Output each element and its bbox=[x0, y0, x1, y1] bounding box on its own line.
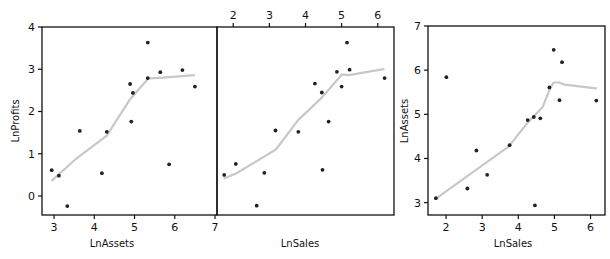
x-tick-label: 5 bbox=[338, 9, 345, 22]
data-point bbox=[335, 70, 339, 74]
data-point bbox=[526, 118, 530, 122]
x-tick-label: 3 bbox=[266, 9, 273, 22]
data-point bbox=[146, 76, 150, 80]
y-tick-label: 2 bbox=[28, 105, 35, 118]
data-point bbox=[78, 129, 82, 133]
y-tick-label: 3 bbox=[414, 197, 421, 210]
y-axis-label: LnProfits bbox=[10, 99, 21, 142]
x-tick-label: 3 bbox=[51, 221, 58, 234]
data-point bbox=[345, 41, 349, 45]
x-tick-label: 4 bbox=[515, 221, 522, 234]
data-point bbox=[321, 168, 325, 172]
x-tick-label: 6 bbox=[374, 9, 381, 22]
tick-group: 2345634567 bbox=[414, 20, 594, 234]
panel-lnprofits-vs-lnassets: 3456701234 LnAssets LnProfits bbox=[10, 21, 218, 249]
points-group bbox=[50, 41, 197, 208]
smoother-line bbox=[437, 83, 596, 198]
x-axis-label: LnSales bbox=[494, 238, 533, 249]
data-point bbox=[445, 75, 449, 79]
smoother-line bbox=[52, 75, 194, 180]
data-point bbox=[508, 143, 512, 147]
data-point bbox=[348, 68, 352, 72]
data-point bbox=[65, 204, 69, 208]
data-point bbox=[158, 70, 162, 74]
data-point bbox=[594, 99, 598, 103]
x-axis-label: LnSales bbox=[281, 238, 320, 249]
data-point bbox=[262, 171, 266, 175]
panel-lnassets-vs-lnsales: 2345634567 LnSales LnAssets bbox=[399, 20, 605, 249]
panel-frame bbox=[428, 26, 605, 215]
data-point bbox=[274, 129, 278, 133]
y-tick-label: 7 bbox=[414, 20, 421, 33]
data-point bbox=[466, 187, 470, 191]
x-tick-label: 5 bbox=[551, 221, 558, 234]
scatterplot-matrix: 3456701234 LnAssets LnProfits 23456 LnSa… bbox=[0, 0, 610, 259]
data-point bbox=[313, 82, 317, 86]
data-point bbox=[181, 68, 185, 72]
data-point bbox=[100, 171, 104, 175]
y-tick-label: 4 bbox=[414, 152, 421, 165]
data-point bbox=[222, 173, 226, 177]
points-group bbox=[222, 41, 386, 208]
x-tick-label: 2 bbox=[443, 221, 450, 234]
panel-lnprofits-vs-lnsales: 23456 LnSales bbox=[217, 9, 394, 249]
data-point bbox=[558, 98, 562, 102]
data-point bbox=[383, 76, 387, 80]
x-tick-label: 2 bbox=[230, 9, 237, 22]
tick-group: 3456701234 bbox=[28, 21, 218, 234]
data-point bbox=[485, 173, 489, 177]
x-tick-label: 4 bbox=[302, 9, 309, 22]
data-point bbox=[533, 203, 537, 207]
data-point bbox=[234, 162, 238, 166]
data-point bbox=[434, 196, 438, 200]
data-point bbox=[129, 120, 133, 124]
x-axis-label: LnAssets bbox=[90, 238, 134, 249]
data-point bbox=[193, 85, 197, 89]
data-point bbox=[532, 115, 536, 119]
data-point bbox=[128, 82, 132, 86]
data-point bbox=[131, 91, 135, 95]
x-tick-label: 3 bbox=[479, 221, 486, 234]
data-point bbox=[146, 41, 150, 45]
x-tick-label: 7 bbox=[211, 221, 218, 234]
data-point bbox=[548, 86, 552, 90]
smoother-line bbox=[225, 69, 384, 178]
y-tick-label: 3 bbox=[28, 63, 35, 76]
data-point bbox=[560, 60, 564, 64]
y-tick-label: 0 bbox=[28, 190, 35, 203]
data-point bbox=[475, 149, 479, 153]
x-tick-label: 4 bbox=[91, 221, 98, 234]
tick-group: 23456 bbox=[230, 9, 381, 27]
data-point bbox=[57, 174, 61, 178]
y-tick-label: 4 bbox=[28, 21, 35, 34]
y-tick-label: 5 bbox=[414, 108, 421, 121]
x-tick-label: 6 bbox=[587, 221, 594, 234]
data-point bbox=[255, 204, 259, 208]
data-point bbox=[320, 91, 324, 95]
data-point bbox=[552, 48, 556, 52]
data-point bbox=[296, 130, 300, 134]
data-point bbox=[327, 120, 331, 124]
data-point bbox=[167, 162, 171, 166]
y-axis-label: LnAssets bbox=[399, 99, 410, 143]
x-tick-label: 6 bbox=[171, 221, 178, 234]
data-point bbox=[50, 168, 54, 172]
x-tick-label: 5 bbox=[131, 221, 138, 234]
y-tick-label: 6 bbox=[414, 64, 421, 77]
panel-frame bbox=[217, 27, 394, 215]
data-point bbox=[340, 85, 344, 89]
data-point bbox=[538, 116, 542, 120]
data-point bbox=[105, 130, 109, 134]
y-tick-label: 1 bbox=[28, 148, 35, 161]
